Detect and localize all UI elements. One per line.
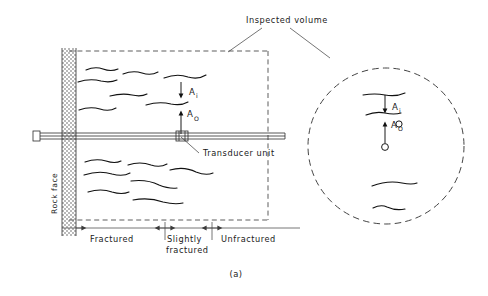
figure-root: Rock face A i A O	[0, 0, 488, 296]
zone-label-slightly-2: fractured	[166, 245, 209, 255]
rock-face-label-group: Rock face	[50, 173, 59, 214]
transducer-unit-label: Transducer unit	[202, 148, 275, 158]
amplitude-incident-label: A	[189, 87, 195, 97]
figure-caption: (a)	[230, 269, 243, 279]
amplitude-output-label: A	[187, 109, 193, 119]
zone-label-unfractured: Unfractured	[221, 234, 276, 244]
rock-face-band	[62, 48, 76, 236]
rock-face-label: Rock face	[50, 173, 59, 214]
zone-label-fractured: Fractured	[90, 234, 134, 244]
zone-label-slightly: Slightly	[167, 234, 202, 244]
detail-amplitude-incident-label: A	[392, 102, 398, 112]
ultrasonic-borehole-inspection-diagram: Rock face A i A O	[0, 0, 488, 296]
detail-amplitude-output-subscript: O	[398, 125, 403, 132]
amplitude-incident-subscript: i	[196, 92, 198, 99]
inspected-volume-label: Inspected volume	[246, 15, 328, 25]
amplitude-output-subscript: O	[194, 115, 199, 122]
detail-amplitude-incident-subscript: i	[399, 107, 401, 114]
